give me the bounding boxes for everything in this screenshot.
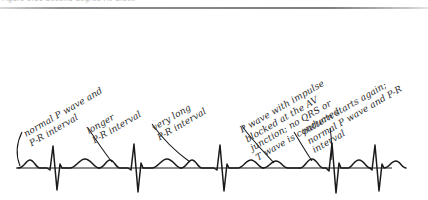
ecg-figure: Figure 5.10 Second-degree AV block norma…: [0, 0, 428, 200]
leader-line-beat-1: [17, 132, 22, 166]
figure-header-strip: Figure 5.10 Second-degree AV block: [0, 0, 428, 12]
ecg-beat-4-dropped: [263, 161, 300, 168]
header-divider: [0, 7, 428, 9]
figure-caption-clipped: Figure 5.10 Second-degree AV block: [2, 0, 135, 3]
